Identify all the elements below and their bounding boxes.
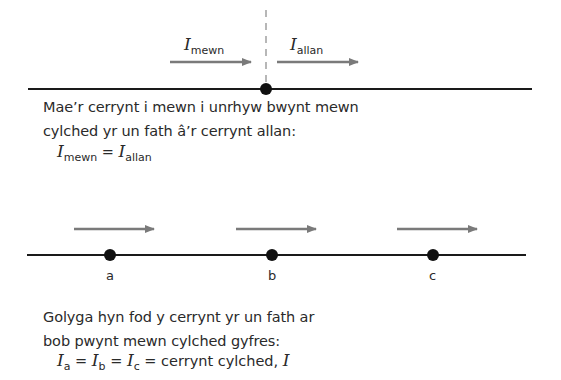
formula-series-current: Ia = Ib = Ic = cerrynt cylched, I [57, 350, 290, 370]
point-label-a: a [106, 268, 114, 283]
current-symbol: I [283, 350, 290, 370]
subscript: allan [125, 151, 152, 164]
label-current-in: Imewn [184, 34, 224, 54]
subscript-mewn: mewn [191, 44, 224, 57]
series-line-1: Golyga hyn fod y cerrynt yr un fath ar [43, 305, 314, 329]
current-symbol: I [184, 34, 191, 54]
subscript: b [99, 360, 106, 373]
current-symbol: I [57, 350, 64, 370]
equals-sign: = [110, 353, 122, 369]
explanation-line-2: cylched yr un fath â’r cerrynt allan: [43, 119, 296, 143]
point-c [427, 249, 439, 261]
formula-in-equals-out: Imewn = Iallan [57, 141, 152, 161]
subscript-allan: allan [297, 44, 324, 57]
point-a [104, 249, 116, 261]
point-label-b: b [268, 268, 276, 283]
equals-sign: = [102, 144, 114, 160]
explanation-line-1: Mae’r cerrynt i mewn i unrhyw bwynt mewn [43, 95, 359, 119]
junction-point [260, 83, 272, 95]
equals-sign: = [75, 353, 87, 369]
subscript: c [134, 360, 140, 373]
current-symbol: I [57, 141, 64, 161]
current-symbol: I [127, 350, 134, 370]
current-symbol: I [92, 350, 99, 370]
subscript: a [64, 360, 71, 373]
point-label-c: c [429, 268, 436, 283]
formula-tail-text: = cerrynt cylched, [144, 353, 278, 369]
subscript: mewn [64, 151, 97, 164]
label-current-out: Iallan [290, 34, 323, 54]
point-b [266, 249, 278, 261]
current-symbol: I [290, 34, 297, 54]
